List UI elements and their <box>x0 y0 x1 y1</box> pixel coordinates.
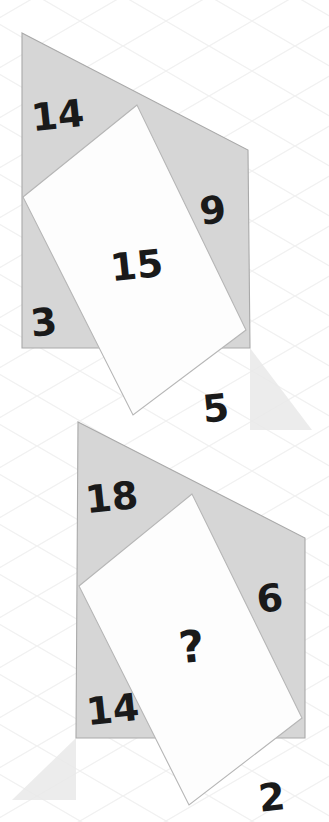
puzzle-illustration: 14 9 3 5 15 18 6 14 2 ? <box>0 0 329 822</box>
shape-top-label-center: 15 <box>108 241 165 290</box>
puzzle-canvas: 14 9 3 5 15 18 6 14 2 ? <box>0 0 329 822</box>
shape-bottom-label-bottom-left: 14 <box>84 685 141 734</box>
shape-bottom-label-top-right: 6 <box>254 575 285 622</box>
shape-top-label-bottom-right: 5 <box>200 385 231 432</box>
shape-bottom-label-center-question: ? <box>176 620 207 673</box>
shape-bottom-label-top-left: 18 <box>83 473 140 522</box>
shape-top-label-bottom-left: 3 <box>28 299 59 346</box>
shape-bottom-label-bottom-right: 2 <box>256 774 287 821</box>
shape-top-label-top-right: 9 <box>197 187 228 234</box>
shape-top-label-top-left: 14 <box>29 91 86 140</box>
